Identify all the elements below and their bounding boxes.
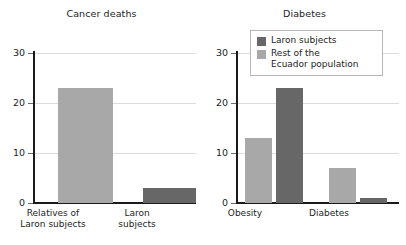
ytick-label-10-right: 10 [203,148,228,158]
panel-cancer-deaths: Cancer deaths 30 20 10 0 Relatives of La… [0,0,203,245]
bar-group-left [33,53,196,203]
ytick-label-20-right: 20 [203,98,228,108]
ytick-label-30-right: 30 [203,48,228,58]
legend-swatch-ecuador-population [257,50,266,59]
xlabel-obesity: Obesity [215,208,275,219]
chart-title-diabetes: Diabetes [203,8,406,19]
chart-title-cancer-deaths: Cancer deaths [0,8,203,19]
legend-label-ecuador-population: Rest of the Ecuador population [271,48,359,70]
legend-swatch-laron-subjects [257,37,266,46]
xlabel-diabetes: Diabetes [299,208,359,219]
legend: Laron subjects Rest of the Ecuador popul… [250,30,383,76]
legend-item-ecuador-population: Rest of the Ecuador population [257,48,377,70]
legend-label-laron-subjects: Laron subjects [271,35,336,46]
bar-diabetes-laron-subjects [360,198,387,203]
xlabel-laron-subjects: Laron subjects [105,208,169,230]
ytick-label-10-left: 10 [0,148,25,158]
ytick-label-0-left: 0 [0,198,25,208]
ytick-label-20-left: 20 [0,98,25,108]
xlabel-relatives-of-laron-subjects: Relatives of Laron subjects [20,208,86,230]
ytick-label-30-left: 30 [0,48,25,58]
figure-two-panel-bar-charts: Cancer deaths 30 20 10 0 Relatives of La… [0,0,406,245]
bar-diabetes-ecuador-population [329,168,356,203]
panel-diabetes: Diabetes 30 20 10 0 Obesity Diabetes [203,0,406,245]
ytick-label-0-right: 0 [203,198,228,208]
bar-relatives-of-laron-subjects [58,88,113,203]
bar-obesity-ecuador-population [245,138,272,203]
bar-laron-subjects [143,188,196,203]
bar-obesity-laron-subjects [276,88,303,203]
legend-item-laron-subjects: Laron subjects [257,35,377,46]
